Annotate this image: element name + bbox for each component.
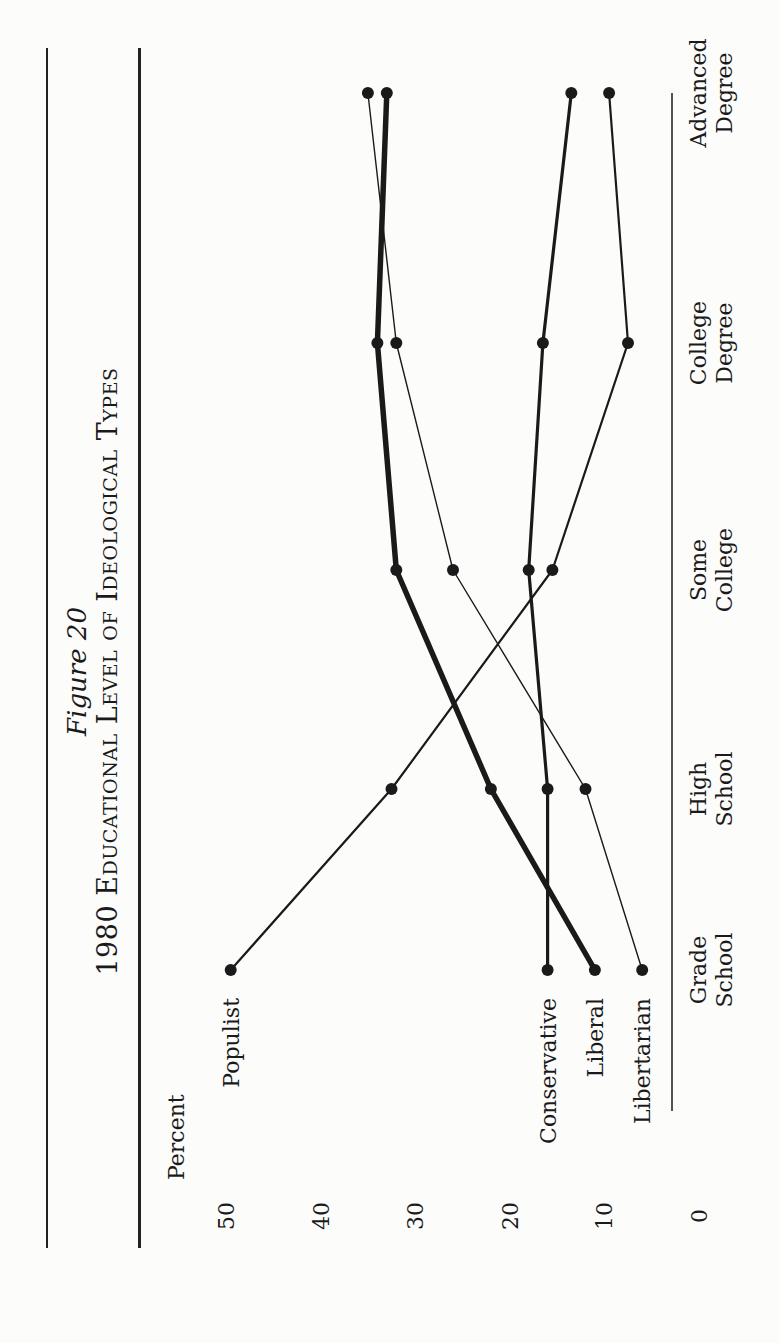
series-line-populist [231,93,628,970]
data-point-libertarian [447,564,459,576]
data-point-libertarian [580,783,592,795]
data-point-liberal [390,564,402,576]
y-tick-label: 10 [592,1202,617,1230]
category-label: Grade [686,936,711,1004]
category-label: School [712,751,737,826]
data-point-populist [225,964,237,976]
category-label: Degree [712,302,737,383]
category-label: College [712,528,737,612]
data-point-populist [386,783,398,795]
category-label: College [686,301,711,385]
data-point-populist [622,337,634,349]
y-tick-label: 30 [403,1202,428,1230]
y-tick-label: 40 [309,1202,334,1230]
data-point-conservative [565,87,577,99]
category-label: Advanced [686,38,711,148]
y-tick-label: 20 [498,1202,523,1230]
data-point-libertarian [362,87,374,99]
data-point-conservative [542,964,554,976]
data-point-conservative [542,783,554,795]
data-point-conservative [537,337,549,349]
series-label-liberal: Liberal [583,998,608,1077]
series-label-libertarian: Libertarian [630,998,655,1124]
data-point-conservative [523,564,535,576]
category-label: Degree [712,52,737,133]
data-point-libertarian [390,337,402,349]
series-label-populist: Populist [219,998,244,1088]
data-point-liberal [381,87,393,99]
series-line-libertarian [368,93,642,970]
data-point-liberal [485,783,497,795]
category-label: High [686,762,711,816]
y-axis-label: Percent [164,1094,189,1180]
y-tick-label: 50 [214,1202,239,1230]
category-label: Some [686,539,711,601]
y-tick-label: 0 [687,1209,712,1223]
data-point-liberal [589,964,601,976]
series-line-liberal [377,93,595,970]
data-point-libertarian [636,964,648,976]
line-chart: Percent50403020100GradeSchoolHighSchoolS… [0,0,780,1343]
rotated-figure-page: Figure 20 1980 Educational Level of Ideo… [0,0,780,1343]
category-label: School [712,932,737,1007]
data-point-populist [546,564,558,576]
data-point-liberal [371,337,383,349]
series-label-conservative: Conservative [536,998,561,1144]
data-point-populist [603,87,615,99]
